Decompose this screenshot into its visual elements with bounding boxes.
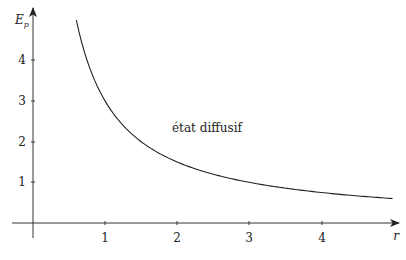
- y-tick-label: 4: [18, 53, 26, 67]
- y-axis-label: Ep: [14, 13, 29, 29]
- y-tick-label: 2: [18, 135, 26, 149]
- data-curve: [76, 20, 392, 199]
- x-axis-label: r: [393, 229, 400, 243]
- y-tick-label: 3: [18, 94, 26, 108]
- annotation-label: état diffusif: [172, 121, 243, 135]
- x-tick-label: 1: [101, 231, 109, 245]
- x-tick-label: 4: [318, 231, 326, 245]
- x-tick-label: 2: [173, 231, 181, 245]
- chart: 1 2 3 4 1 2 3 4 Ep r état diffusif: [0, 0, 406, 260]
- x-tick-label: 3: [245, 231, 253, 245]
- y-tick-label: 1: [18, 175, 26, 189]
